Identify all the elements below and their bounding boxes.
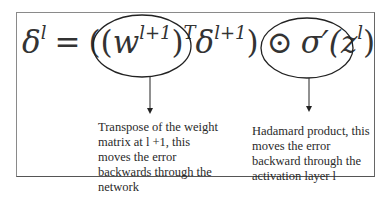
- annotation-line: activation layer l: [252, 169, 372, 184]
- annotation-line: Hadamard product, this: [252, 124, 372, 139]
- hadamard-highlight-ellipse: [261, 18, 353, 78]
- annotation-line: moves the error: [252, 139, 372, 154]
- annotation-line: network: [98, 180, 218, 195]
- annotation-line: matrix at l +1, this: [98, 135, 218, 150]
- hadamard-annotation: Hadamard product, this moves the error b…: [252, 124, 372, 184]
- arrow-head-right: [306, 106, 312, 112]
- arrow-head-left: [147, 108, 153, 114]
- annotation-line: backward through the: [252, 154, 372, 169]
- annotation-line: Transpose of the weight: [98, 120, 218, 135]
- transpose-highlight-ellipse: [93, 15, 191, 77]
- transpose-annotation: Transpose of the weight matrix at l +1, …: [98, 120, 218, 195]
- annotation-line: moves the error: [98, 150, 218, 165]
- annotation-line: backwards through the: [98, 165, 218, 180]
